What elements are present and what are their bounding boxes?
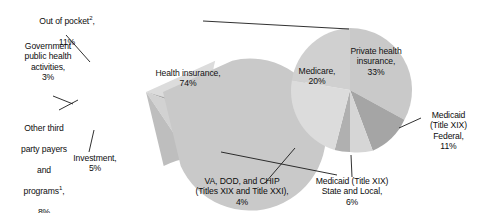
label-private-health-insurance: Private health insurance, 33% bbox=[340, 46, 412, 77]
leader-medicaid-state-local bbox=[351, 155, 352, 177]
label-other-third-party-value: 8% bbox=[38, 207, 50, 213]
label-medicaid-federal: Medicaid (Title XIX) Federal, 11% bbox=[420, 110, 477, 152]
label-government-public-health: Government public health activities, 3% bbox=[0, 41, 96, 83]
label-health-insurance: Health insurance, 74% bbox=[143, 68, 233, 89]
label-investment: Investment, 5% bbox=[57, 153, 133, 174]
label-out-of-pocket-comma: , bbox=[92, 16, 94, 26]
label-va-dod-chip: VA, DOD, and CHIP (Titles XIX and Title … bbox=[178, 176, 306, 207]
leader-investment bbox=[89, 130, 94, 152]
label-other-third-party-line1: Other third bbox=[24, 123, 64, 133]
label-out-of-pocket-text: Out of pocket bbox=[39, 16, 89, 26]
label-medicare: Medicare, 20% bbox=[289, 66, 345, 87]
label-other-third-party-line4: programs bbox=[23, 186, 59, 196]
label-medicaid-state-local: Medicaid (Title XIX) State and Local, 6% bbox=[299, 176, 405, 207]
leader-government-public-health bbox=[53, 96, 73, 104]
label-other-third-party-line3: and bbox=[37, 165, 51, 175]
connector-top bbox=[203, 21, 349, 29]
leader-other-third-party bbox=[59, 100, 78, 110]
label-other-third-party-comma: , bbox=[62, 186, 64, 196]
pie-of-pie-figure: Out of pocket2, 11% Government public he… bbox=[0, 0, 479, 213]
